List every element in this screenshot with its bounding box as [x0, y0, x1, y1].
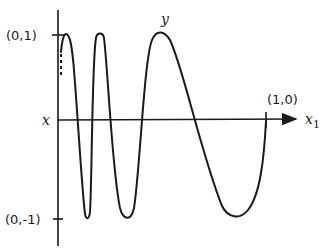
label-x-left: x — [42, 112, 50, 128]
label-0-1: (0,1) — [6, 28, 37, 43]
oscillating-curve-diagram: (0,1) (0,-1) (1,0) x y x1 — [0, 0, 328, 251]
label-y-curve: y — [160, 11, 170, 27]
label-1-0: (1,0) — [267, 92, 298, 107]
label-0-neg1: (0,-1) — [5, 212, 41, 227]
label-x1-subscript: 1 — [313, 118, 320, 131]
x-axis — [58, 119, 296, 120]
label-x1-axis: x1 — [305, 111, 320, 131]
label-x1-base: x — [305, 111, 313, 127]
curve-y — [61, 33, 266, 219]
